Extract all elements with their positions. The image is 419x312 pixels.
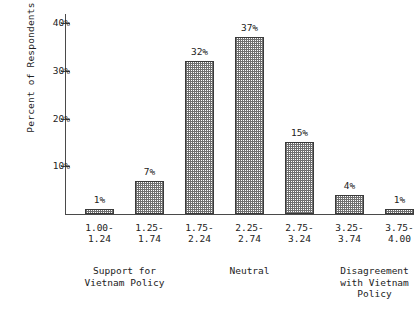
x-tick-label: 1.00-1.24	[72, 222, 127, 244]
bar-value-label: 15%	[273, 128, 326, 138]
bar	[285, 142, 314, 214]
x-tick-label-line: 1.25-	[122, 222, 177, 233]
x-tick-label: 1.25-1.74	[122, 222, 177, 244]
x-tick-label-line: 1.74	[122, 233, 177, 244]
group-label-line: Neutral	[190, 265, 310, 277]
bar-value-label: 32%	[173, 47, 226, 57]
x-tick-label: 3.75-4.00	[372, 222, 419, 244]
bar	[235, 37, 264, 214]
group-label-1: Neutral	[190, 265, 310, 277]
x-tick-label: 3.25-3.74	[322, 222, 377, 244]
bar	[335, 195, 364, 214]
x-tick-label-line: 2.75-	[272, 222, 327, 233]
group-label-0: Support forVietnam Policy	[65, 265, 185, 288]
bar	[85, 209, 114, 214]
x-tick-label: 1.75-2.24	[172, 222, 227, 244]
x-tick-label-line: 2.25-	[222, 222, 277, 233]
x-tick-label-line: 1.24	[72, 233, 127, 244]
bar-value-label: 37%	[223, 23, 276, 33]
x-tick-label: 2.75-3.24	[272, 222, 327, 244]
x-tick-label-line: 1.75-	[172, 222, 227, 233]
x-tick-label-line: 3.75-	[372, 222, 419, 233]
x-tick-label-line: 1.00-	[72, 222, 127, 233]
group-label-line: Disagreement	[315, 265, 419, 277]
x-tick-label-line: 3.24	[272, 233, 327, 244]
bar-chart: Percent of Respondents 10%20%30%40% 1%7%…	[0, 0, 419, 312]
x-tick-label: 2.25-2.74	[222, 222, 277, 244]
x-tick-label-line: 2.74	[222, 233, 277, 244]
bar	[135, 181, 164, 214]
group-label-line: with Vietnam	[315, 277, 419, 289]
x-tick-label-line: 2.24	[172, 233, 227, 244]
group-label-line: Support for	[65, 265, 185, 277]
group-label-2: Disagreementwith VietnamPolicy	[315, 265, 419, 300]
bar-value-label: 1%	[373, 195, 419, 205]
bar	[385, 209, 414, 214]
bar-value-label: 1%	[73, 195, 126, 205]
bar-value-label: 4%	[323, 181, 376, 191]
x-tick-label-line: 4.00	[372, 233, 419, 244]
group-label-line: Policy	[315, 288, 419, 300]
x-tick-label-line: 3.25-	[322, 222, 377, 233]
bar	[185, 61, 214, 214]
x-tick-label-line: 3.74	[322, 233, 377, 244]
bar-value-label: 7%	[123, 167, 176, 177]
group-label-line: Vietnam Policy	[65, 277, 185, 289]
